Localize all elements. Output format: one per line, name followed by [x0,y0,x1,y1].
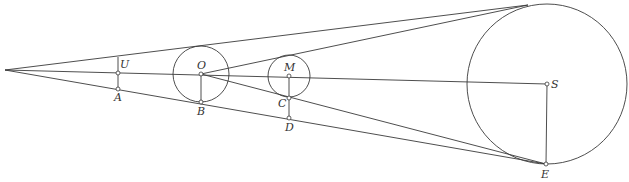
point-labels: U A O B M C D S E [113,58,559,181]
line-O-to-E [201,74,546,164]
line-apex-to-E [5,70,546,164]
point-markers [116,71,549,166]
construction-lines [5,5,547,164]
label-S: S [551,78,559,91]
point-E [544,162,548,166]
point-O [199,72,203,76]
label-E: E [540,168,549,181]
point-B [199,100,203,104]
point-D [287,116,291,120]
geometry-diagram: U A O B M C D S E [0,0,629,182]
label-C: C [278,97,287,110]
point-C [287,96,291,100]
label-D: D [284,121,294,134]
segment-S-E [546,84,547,164]
point-S [545,82,549,86]
point-M [287,74,291,78]
label-U: U [120,58,130,71]
label-B: B [196,105,205,118]
label-O: O [197,59,206,72]
label-M: M [283,61,296,74]
label-A: A [113,91,122,104]
line-apex-to-S [5,70,547,84]
point-U [116,71,120,75]
